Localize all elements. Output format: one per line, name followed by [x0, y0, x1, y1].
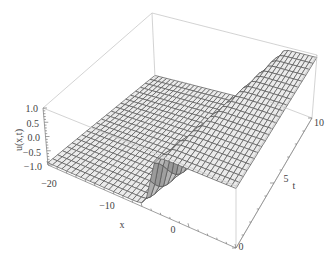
z-tick-label: 0.5: [27, 118, 40, 129]
t-tick-label: 0: [239, 241, 244, 252]
x-axis-label: x: [120, 219, 125, 230]
surface-plot: 1.0 0.5 0.0 −0.5 −1.0 u(x,t) −20 −10 0 x…: [0, 0, 334, 261]
z-tick-label: 1.0: [26, 103, 39, 114]
t-tick-label: 10: [314, 117, 324, 128]
z-axis-label: u(x,t): [13, 129, 25, 151]
z-tick-label: −1.0: [24, 161, 42, 172]
x-tick-label: 0: [171, 224, 176, 235]
x-tick-label: −10: [99, 200, 115, 211]
z-tick-label: 0.0: [28, 132, 41, 143]
x-tick-label: −20: [41, 178, 57, 189]
t-tick-label: 5: [284, 173, 289, 184]
z-tick-label: −0.5: [23, 147, 41, 158]
t-axis-label: t: [293, 180, 296, 191]
